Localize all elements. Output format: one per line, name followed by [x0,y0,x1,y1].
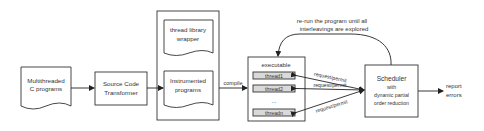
source-doc-line1: Multithreaded [27,77,65,84]
request-permit-edges: request/permit request/permit request/pe… [296,71,364,114]
transformer-line2: Transformer [104,89,137,96]
executable-title: executable [261,62,291,68]
thread-label-2: thread2 [265,86,283,92]
wrapper-doc-line1: thread library [170,26,207,33]
diagram-canvas: Multithreaded C programs Source Code Tra… [0,0,484,131]
scheduler-line1: Scheduler [377,75,407,82]
scheduler-line3: dynamic partial [374,92,409,98]
source-programs-document: Multithreaded C programs [21,67,71,109]
scheduler-box: Scheduler with dynamic partial order red… [365,65,418,117]
executable-box: executable thread1 thread2 ... threadn [248,57,305,121]
thread-library-wrapper-document: thread library wrapper [164,20,213,56]
instrumented-doc-line1: Instrumented [170,77,207,84]
wrapper-doc-line2: wrapper [176,35,199,42]
report-errors-line1: report [446,83,462,89]
source-code-transformer-box: Source Code Transformer [95,72,147,105]
thread-ellipsis: ... [271,98,276,104]
thread-label-n: threadn [265,110,283,116]
request-permit-label-2: request/permit [313,82,347,88]
rerun-label-line2: interleavings are explored [300,26,369,32]
thread-box-1: thread1 [253,72,295,79]
rerun-label-line1: re-run the program until all [297,18,367,24]
thread-box-n: threadn [253,109,295,116]
report-errors-line2: errors [446,92,462,98]
instrumented-programs-document: Instrumented programs [164,71,213,108]
transformer-line1: Source Code [103,80,140,87]
scheduler-line4: order reduction [374,100,409,106]
compile-label: compile [224,80,243,86]
thread-box-2: thread2 [253,85,295,92]
source-doc-line2: C programs [30,85,62,92]
thread-label-1: thread1 [265,73,283,79]
scheduler-line2: with [387,84,396,90]
instrumented-doc-line2: programs [175,86,201,93]
